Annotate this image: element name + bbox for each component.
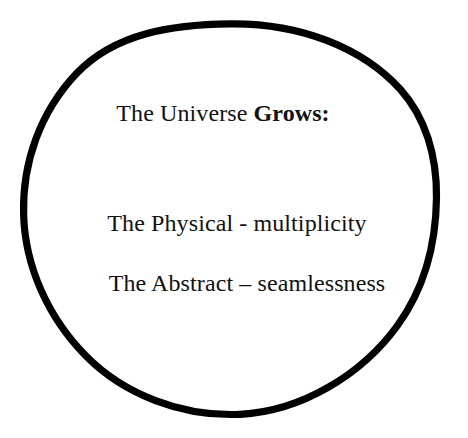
circle-text-content: The Universe Grows: The Physical - multi… — [0, 0, 468, 438]
heading-emphasis-text: Grows: — [254, 100, 330, 126]
heading-prefix-text: The Universe — [116, 100, 253, 126]
item-physical-label: The Physical - multiplicity — [0, 209, 468, 237]
item-abstract-label: The Abstract – seamlessness — [0, 269, 468, 297]
diagram-canvas: The Universe Grows: The Physical - multi… — [0, 0, 468, 438]
heading-line: The Universe Grows: — [0, 99, 446, 127]
